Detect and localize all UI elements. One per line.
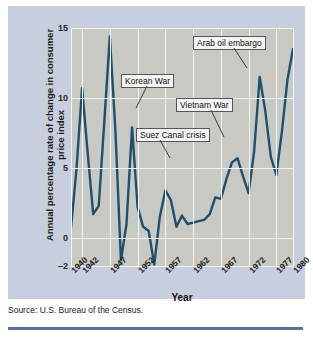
figure-container: Annual percentage rate of change in cons… [0, 0, 313, 342]
gridline-horizontal [71, 238, 293, 239]
annotation-arab-oil-embargo: Arab oil embargo [193, 36, 266, 50]
chart-panel: Annual percentage rate of change in cons… [8, 6, 305, 299]
gridline-vertical [193, 28, 194, 266]
annotation-suez-canal-crisis: Suez Canal crisis [136, 128, 210, 142]
gridline-vertical [249, 28, 250, 266]
gridline-vertical [138, 28, 139, 266]
y-tick-label: –2 [48, 262, 68, 271]
gridline-vertical [293, 28, 294, 266]
y-axis-ticks: 151050–2 [44, 28, 68, 266]
x-tick-label: 1980 [291, 255, 311, 275]
y-tick-label: 0 [48, 234, 68, 243]
gridline-vertical [276, 28, 277, 266]
gridline-vertical [82, 28, 83, 266]
annotation-korean-war: Korean War [121, 74, 174, 88]
gridline-vertical [221, 28, 222, 266]
gridline-vertical [71, 28, 72, 266]
cpi-line-series [71, 28, 293, 266]
bottom-rule [8, 327, 303, 330]
gridline-horizontal [71, 168, 293, 169]
annotation-vietnam-war: Vietnam War [176, 98, 233, 112]
gridline-vertical [165, 28, 166, 266]
y-tick-label: 5 [48, 164, 68, 173]
series-line [71, 36, 293, 264]
y-tick-label: 15 [48, 24, 68, 33]
source-note: Source: U.S. Bureau of the Census. [8, 305, 143, 315]
gridline-horizontal [71, 28, 293, 29]
plot-area [71, 28, 293, 266]
gridline-vertical [110, 28, 111, 266]
x-axis-title: Year [71, 292, 293, 303]
y-tick-label: 10 [48, 94, 68, 103]
